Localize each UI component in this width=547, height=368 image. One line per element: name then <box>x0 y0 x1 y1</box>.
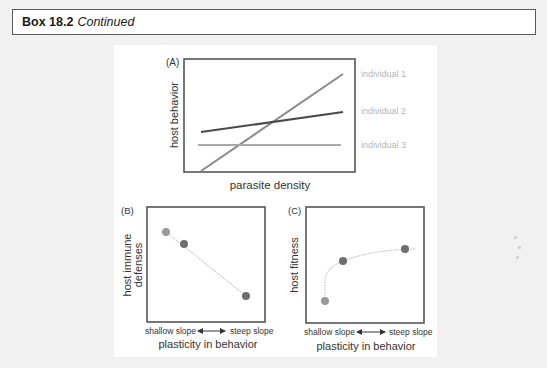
panel-b: (B) host immune defenses shallow slope s… <box>121 205 274 350</box>
panel-b-label: (B) <box>121 205 134 216</box>
scan-artifact <box>518 246 521 249</box>
panel-b-point-3 <box>242 292 250 300</box>
panel-c-trend-curve <box>325 249 416 301</box>
panel-c-tick-shallow: shallow slope <box>304 327 355 337</box>
panel-a-y-axis-label: host behavior <box>168 82 180 148</box>
panel-c-label: (C) <box>288 205 301 216</box>
panel-a-frame <box>184 59 355 172</box>
scan-artifact <box>516 256 519 259</box>
panel-c-point-3 <box>401 245 409 253</box>
panel-c: (C) host fitness shallow slope steep slo… <box>288 205 433 352</box>
panel-b-tick-shallow: shallow slope <box>145 326 196 336</box>
panel-c-tick-steep: steep slope <box>389 327 433 337</box>
panel-b-trend-line <box>166 232 246 296</box>
line-individual-2 <box>201 112 343 132</box>
panel-c-point-1 <box>321 297 329 305</box>
panel-a-label: (A) <box>166 57 179 68</box>
panel-c-y-axis-label: host fitness <box>288 237 300 293</box>
panel-b-x-axis-label: plasticity in behavior <box>158 338 257 350</box>
scan-artifact <box>514 236 517 239</box>
legend-individual-3: individual 3 <box>361 140 406 150</box>
panel-c-point-2 <box>339 257 347 265</box>
panel-a: (A) host behavior parasite density indiv… <box>166 57 406 191</box>
legend-individual-1: individual 1 <box>361 69 406 79</box>
legend-individual-2: individual 2 <box>361 106 406 116</box>
panel-b-point-2 <box>180 240 188 248</box>
figure-svg: (A) host behavior parasite density indiv… <box>0 0 547 368</box>
panel-b-point-1 <box>162 228 170 236</box>
panel-b-y-axis-label-line2: defenses <box>132 242 144 287</box>
panel-a-x-axis-label: parasite density <box>230 179 311 191</box>
panel-c-x-axis-label: plasticity in behavior <box>316 340 415 352</box>
panel-b-tick-steep: steep slope <box>230 326 274 336</box>
panel-b-frame <box>147 207 265 322</box>
panel-c-frame <box>306 207 424 323</box>
